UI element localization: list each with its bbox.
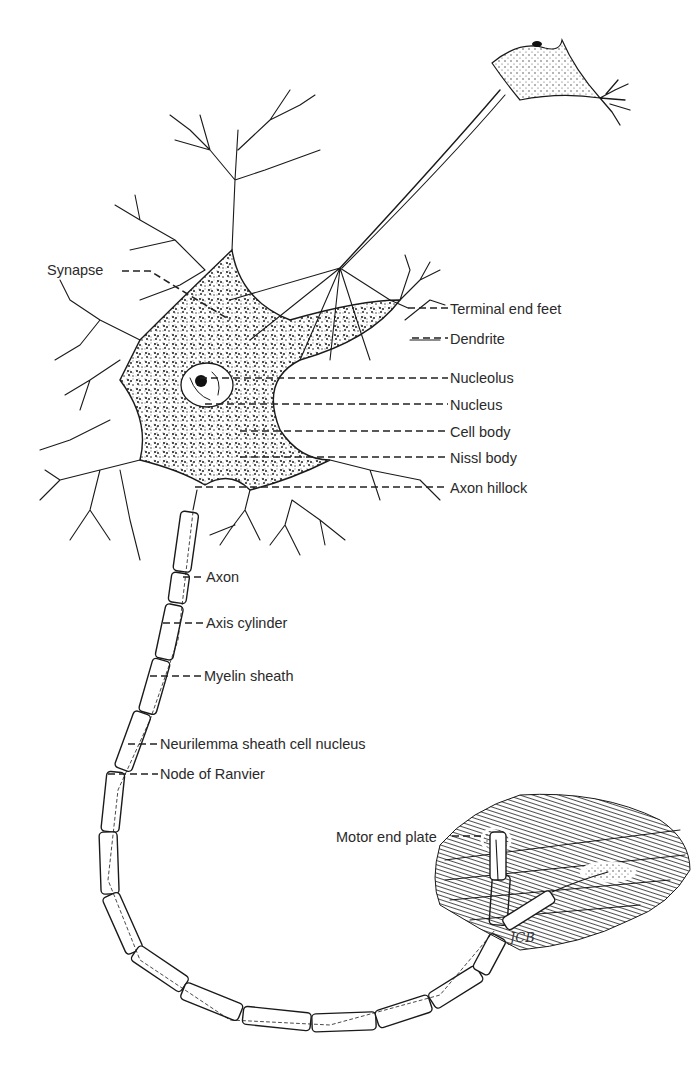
axon [99, 490, 510, 1032]
label-synapse: Synapse [47, 262, 103, 278]
label-nissl-body: Nissl body [450, 450, 517, 466]
label-nucleus: Nucleus [450, 397, 502, 413]
cell-body [120, 250, 400, 490]
neuron-diagram [0, 0, 696, 1070]
label-axon-hillock: Axon hillock [450, 480, 527, 496]
label-motor-end-plate: Motor end plate [336, 829, 437, 845]
label-axon: Axon [206, 569, 239, 585]
label-nucleolus: Nucleolus [450, 370, 514, 386]
muscle-fiber [435, 794, 690, 950]
presynaptic-neuron [340, 40, 630, 268]
label-dendrite: Dendrite [450, 331, 505, 347]
artist-signature: JCB [510, 930, 535, 945]
nucleus [181, 363, 233, 407]
label-myelin-sheath: Myelin sheath [204, 668, 293, 684]
label-neurilemma-sheath-cell-nucleus: Neurilemma sheath cell nucleus [160, 736, 366, 752]
label-cell-body: Cell body [450, 424, 510, 440]
label-node-of-ranvier: Node of Ranvier [160, 766, 265, 782]
label-axis-cylinder: Axis cylinder [206, 615, 287, 631]
label-terminal-end-feet: Terminal end feet [450, 301, 561, 317]
nucleolus [195, 375, 207, 387]
